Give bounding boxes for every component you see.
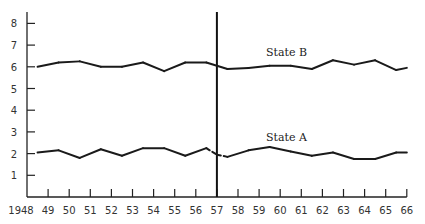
x-tick-label: 55	[168, 205, 181, 216]
state-a-segment	[312, 153, 333, 156]
state-b-segment	[164, 62, 185, 71]
state-b-segment	[227, 68, 248, 69]
state-b-segment	[396, 68, 407, 70]
y-tick-label: 4	[11, 105, 17, 116]
state-b-segment	[217, 66, 228, 69]
state-b-segment	[249, 66, 270, 68]
state-a-segment	[217, 155, 228, 157]
state-b-segment	[291, 66, 312, 69]
state-a-segment	[38, 150, 59, 152]
x-tick-label: 54	[147, 205, 160, 216]
x-tick-label: 58	[232, 205, 245, 216]
y-axis-ticks: 12345678	[11, 18, 35, 181]
state-a-segment	[59, 150, 80, 158]
x-tick-label: 49	[42, 205, 55, 216]
state-b-segment	[206, 62, 217, 65]
y-tick-label: 5	[11, 84, 17, 95]
y-tick-label: 1	[11, 170, 17, 181]
x-tick-label: 56	[189, 205, 202, 216]
state-a-segment	[80, 149, 101, 158]
y-tick-label: 3	[11, 127, 17, 138]
x-tick-label: 62	[316, 205, 329, 216]
state-a-segment	[122, 148, 143, 156]
x-tick-label: 51	[84, 205, 97, 216]
y-tick-label: 2	[11, 149, 17, 160]
x-tick-label: 60	[274, 205, 287, 216]
x-tick-label: 65	[379, 205, 392, 216]
state-a-segment	[101, 149, 122, 156]
x-tick-label: 61	[295, 205, 308, 216]
state-a-segment	[164, 148, 185, 156]
state-a-segment	[249, 147, 270, 150]
state-b-segment	[143, 62, 164, 71]
y-tick-label: 6	[11, 62, 17, 73]
state-a-segment	[185, 148, 206, 156]
x-tick-label: 59	[253, 205, 266, 216]
state-a-segment	[227, 150, 248, 157]
state-b-segment	[38, 62, 59, 66]
y-tick-label: 8	[11, 18, 17, 29]
line-chart: 12345678 1948495051525354555657585960616…	[0, 0, 425, 224]
state-a-segment	[206, 148, 217, 155]
x-tick-label: 53	[126, 205, 139, 216]
state-b-segment	[333, 60, 354, 64]
state-a-label: State A	[266, 131, 308, 144]
state-a-segment	[375, 153, 396, 160]
state-a-segment	[291, 151, 312, 155]
x-tick-label: 50	[63, 205, 76, 216]
x-tick-label: 1948	[8, 205, 33, 216]
state-a-segment	[270, 147, 291, 151]
x-tick-label: 52	[105, 205, 118, 216]
x-tick-label: 66	[400, 205, 413, 216]
series-labels: State BState A	[266, 46, 308, 144]
state-b-segment	[312, 60, 333, 69]
state-a-segment	[333, 153, 354, 160]
state-b-segment	[354, 60, 375, 64]
x-tick-label: 57	[211, 205, 224, 216]
state-b-segment	[80, 61, 101, 66]
x-tick-label: 64	[358, 205, 371, 216]
y-tick-label: 7	[11, 40, 17, 51]
x-axis-ticks: 1948495051525354555657585960616263646566	[8, 189, 413, 216]
state-b-segment	[375, 60, 396, 70]
state-b-segment	[122, 62, 143, 66]
data-series	[38, 60, 407, 159]
state-b-segment	[59, 61, 80, 62]
state-b-label: State B	[266, 46, 307, 59]
x-tick-label: 63	[337, 205, 350, 216]
